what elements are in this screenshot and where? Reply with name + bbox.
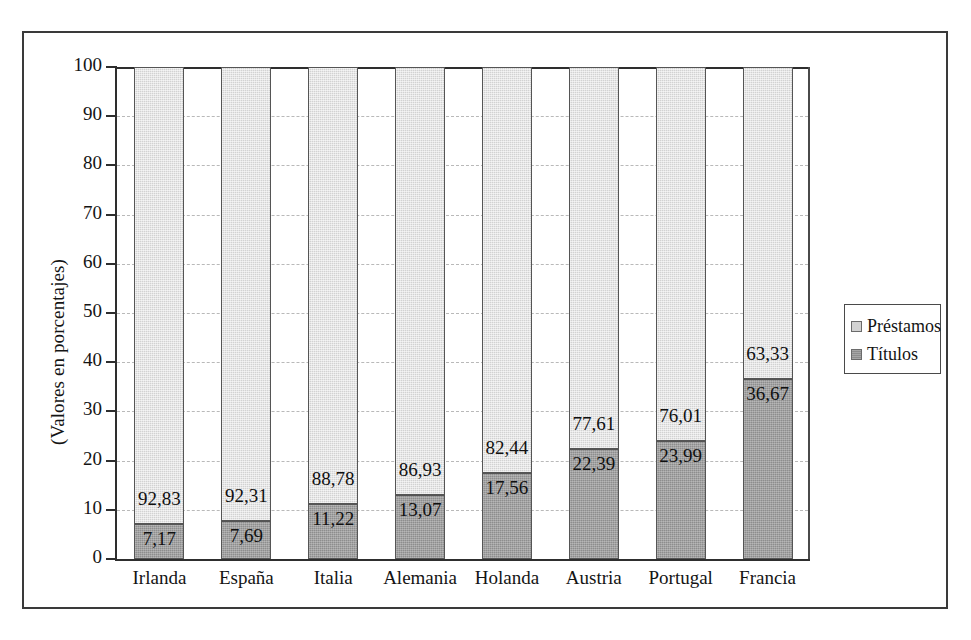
bar-segment-prestamos [482, 67, 532, 473]
y-tick-label: 100 [0, 54, 102, 76]
legend-label-titulos: Títulos [867, 344, 918, 365]
y-tick-label: 50 [0, 300, 102, 322]
y-tick-label: 70 [0, 202, 102, 224]
bar-segment-prestamos [134, 67, 184, 524]
bar-segment-prestamos [743, 67, 793, 379]
legend-label-prestamos: Préstamos [867, 316, 941, 337]
bar-value-label-prestamos: 76,01 [656, 405, 706, 427]
bar-group: 17,5682,44 [482, 67, 532, 559]
bar-group: 7,1792,83 [134, 67, 184, 559]
bar-segment-prestamos [656, 67, 706, 441]
bar-value-label-prestamos: 92,31 [221, 485, 271, 507]
y-tick-label: 90 [0, 103, 102, 125]
y-tick-label: 10 [0, 497, 102, 519]
bar-value-label-titulos: 36,67 [743, 383, 793, 405]
bar-value-label-prestamos: 92,83 [134, 488, 184, 510]
chart-page: (Valores en porcentajes) 010203040506070… [0, 0, 971, 640]
y-tick-mark [106, 66, 117, 68]
x-axis-line [115, 559, 810, 561]
bar-value-label-titulos: 7,69 [221, 525, 271, 547]
bar-value-label-titulos: 22,39 [569, 453, 619, 475]
bar-value-label-prestamos: 77,61 [569, 413, 619, 435]
y-tick-label: 30 [0, 398, 102, 420]
bar-segment-prestamos [395, 67, 445, 495]
bar-value-label-prestamos: 82,44 [482, 437, 532, 459]
legend-item-titulos: Títulos [851, 340, 940, 368]
bar-value-label-titulos: 7,17 [134, 528, 184, 550]
plot-area: 0102030405060708090100 7,1792,837,6992,3… [115, 67, 810, 559]
bar-group: 36,6763,33 [743, 67, 793, 559]
chart-legend: Préstamos Títulos [844, 304, 941, 374]
y-tick-mark [106, 509, 117, 511]
bar-group: 11,2288,78 [308, 67, 358, 559]
x-axis-label-francia: Francia [698, 567, 838, 589]
bar-value-label-titulos: 13,07 [395, 499, 445, 521]
legend-swatch-prestamos [851, 321, 862, 332]
plot-top-border [115, 67, 810, 69]
bar-group: 22,3977,61 [569, 67, 619, 559]
y-tick-mark [106, 312, 117, 314]
bar-segment-prestamos [221, 67, 271, 521]
bar-value-label-prestamos: 63,33 [743, 343, 793, 365]
bar-segment-titulos [743, 379, 793, 559]
bar-value-label-titulos: 11,22 [308, 508, 358, 530]
legend-swatch-titulos [851, 349, 862, 360]
bar-value-label-titulos: 17,56 [482, 477, 532, 499]
y-tick-mark [106, 164, 117, 166]
y-tick-label: 40 [0, 349, 102, 371]
y-tick-label: 20 [0, 448, 102, 470]
bar-segment-prestamos [308, 67, 358, 504]
bar-segment-prestamos [569, 67, 619, 449]
legend-item-prestamos: Préstamos [851, 312, 940, 340]
bar-group: 23,9976,01 [656, 67, 706, 559]
bar-value-label-prestamos: 88,78 [308, 468, 358, 490]
y-tick-mark [106, 558, 117, 560]
bar-value-label-titulos: 23,99 [656, 445, 706, 467]
y-tick-mark [106, 410, 117, 412]
plot-right-border [808, 67, 810, 559]
figure-frame: (Valores en porcentajes) 010203040506070… [22, 31, 948, 609]
bar-group: 13,0786,93 [395, 67, 445, 559]
y-tick-label: 80 [0, 152, 102, 174]
y-tick-mark [106, 115, 117, 117]
y-tick-mark [106, 263, 117, 265]
bar-group: 7,6992,31 [221, 67, 271, 559]
y-tick-mark [106, 460, 117, 462]
y-tick-label: 60 [0, 251, 102, 273]
y-tick-mark [106, 214, 117, 216]
y-tick-label: 0 [0, 546, 102, 568]
bar-value-label-prestamos: 86,93 [395, 459, 445, 481]
y-tick-mark [106, 361, 117, 363]
